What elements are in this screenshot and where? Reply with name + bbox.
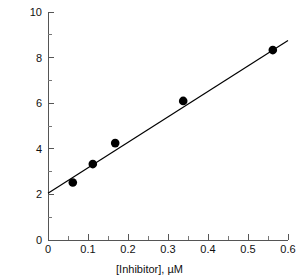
data-point (69, 178, 78, 187)
plot-axes (48, 12, 288, 240)
data-point (89, 160, 98, 169)
y-tick-label: 4 (28, 143, 42, 155)
x-tick-label: 0.5 (240, 243, 255, 255)
x-axis-title: [Inhibitor], µM (0, 263, 299, 275)
chart-figure: 0 0.1 0.2 0.3 0.4 0.5 0.6 0 2 4 6 8 10 [… (0, 0, 299, 278)
fit-line (48, 41, 288, 194)
y-tick-label: 2 (28, 188, 42, 200)
data-point (269, 46, 278, 55)
y-tick-label: 6 (28, 97, 42, 109)
x-tick-label: 0.1 (80, 243, 95, 255)
scatter-plot-canvas (0, 0, 299, 278)
x-major-ticks (48, 234, 288, 240)
y-tick-label: 0 (28, 234, 42, 246)
x-tick-label: 0.4 (200, 243, 215, 255)
x-tick-label: 0.2 (120, 243, 135, 255)
x-tick-label: 0.6 (280, 243, 295, 255)
data-point (179, 97, 188, 106)
y-tick-label: 8 (28, 52, 42, 64)
y-minor-ticks (48, 35, 52, 217)
data-point (111, 139, 120, 148)
y-axis-title-wrap: kobs, (s-1 X 103) (0, 0, 158, 16)
x-tick-label: 0 (45, 243, 51, 255)
x-tick-label: 0.3 (160, 243, 175, 255)
